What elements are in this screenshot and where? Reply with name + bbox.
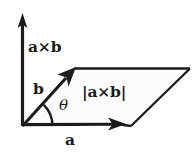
- label-cross-product-axis: a×b: [28, 39, 61, 55]
- label-angle-theta: θ: [59, 98, 68, 113]
- label-vector-b: b: [33, 81, 44, 97]
- figure-canvas: [0, 0, 195, 159]
- label-vector-a: a: [65, 132, 75, 148]
- cross-product-figure: a×b b a |a×b| θ: [0, 0, 195, 159]
- label-area-magnitude: |a×b|: [82, 84, 126, 100]
